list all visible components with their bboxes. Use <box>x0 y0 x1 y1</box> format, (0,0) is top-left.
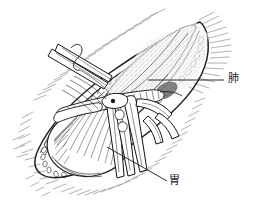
surgical-illustration-figure: 肺 胃 <box>0 0 253 209</box>
label-lung: 肺 <box>228 73 239 84</box>
illustration-canvas <box>0 0 253 209</box>
label-stomach: 胃 <box>169 175 180 186</box>
